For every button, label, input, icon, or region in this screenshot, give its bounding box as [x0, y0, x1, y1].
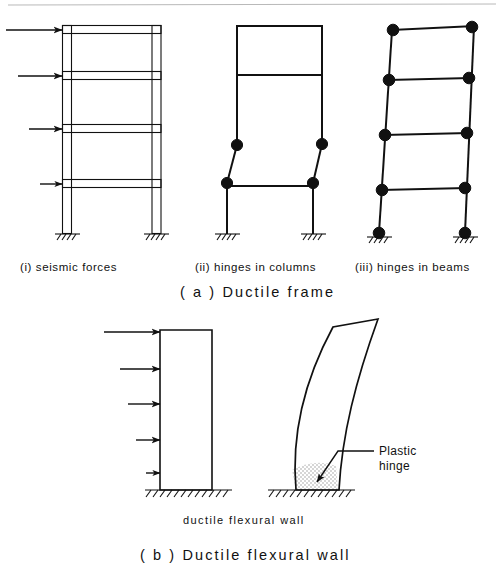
plastic-hinge-label-line2: hinge [379, 459, 410, 473]
seismic-mechanism-diagram: (i) seismic forces (ii) hinges in column… [0, 0, 500, 571]
figure-container: (i) seismic forces (ii) hinges in column… [0, 0, 500, 571]
caption-frame-ii: (ii) hinges in columns [195, 261, 316, 273]
plastic-hinge-dot [461, 127, 473, 139]
plastic-hinge-dot [379, 129, 391, 141]
frame-ii-hinges-in-columns [215, 26, 328, 240]
scan-rule-artifact [8, 4, 496, 5]
wall-ground-lines [145, 490, 355, 497]
frame-i-force-arrows [6, 30, 62, 184]
plastic-hinge-zone [292, 463, 338, 490]
frame-i-seismic-forces [6, 26, 169, 241]
frame-iii-members [379, 26, 474, 233]
plastic-hinge-dot [221, 177, 232, 188]
frame-iii-plastic-hinges [373, 21, 478, 239]
frame-i-supports [55, 234, 169, 240]
caption-panel-a: ( a ) Ductile frame [180, 284, 335, 300]
frame-ii-members [227, 26, 322, 233]
wall-force-arrows [104, 332, 160, 473]
plastic-hinge-dot [231, 139, 242, 150]
wall-outline [160, 330, 212, 490]
plastic-hinge-dot [387, 24, 399, 36]
plastic-hinge-dot [307, 177, 318, 188]
support-fixed [55, 234, 80, 240]
plastic-hinge-dot [316, 138, 327, 149]
caption-panel-b: ( b ) Ductile flexural wall [140, 547, 351, 563]
ground-line-left [145, 490, 232, 497]
frame-iii-hinges-in-beams [367, 21, 478, 243]
plastic-hinge-dot [463, 72, 475, 84]
frame-ii-plastic-hinges [221, 138, 327, 188]
plastic-hinge-dot [459, 182, 471, 194]
frame-i-columns [63, 26, 162, 234]
plastic-hinge-dot [466, 21, 478, 33]
plastic-hinge-label-line1: Plastic [379, 444, 416, 458]
caption-frame-i: (i) seismic forces [20, 261, 117, 273]
plastic-hinge-dot [376, 184, 388, 196]
frame-i-beams [63, 26, 162, 188]
caption-ductile-flexural-wall: ductile flexural wall [183, 514, 305, 526]
support-fixed [301, 234, 326, 240]
support-fixed [144, 234, 169, 240]
wall-right-deformed: Plastic hinge [292, 319, 416, 490]
wall-left-undeformed [104, 330, 212, 490]
frame-ii-supports [215, 234, 326, 240]
plastic-hinge-dot [383, 74, 395, 86]
caption-frame-iii: (iii) hinges in beams [355, 261, 470, 273]
support-fixed [215, 234, 240, 240]
ground-line-right [268, 490, 355, 497]
